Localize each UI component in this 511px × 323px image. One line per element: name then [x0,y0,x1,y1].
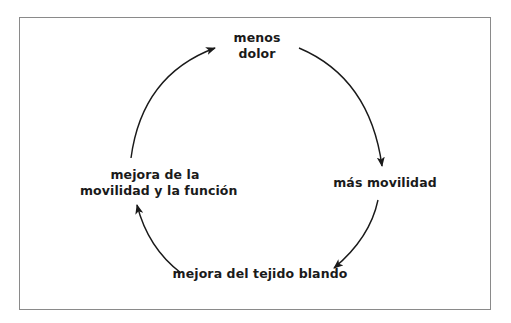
node-mas-movilidad: más movilidad [330,175,440,191]
node-menos-dolor-line1: menos [218,30,296,46]
node-mejora-movilidad-funcion-line2: movilidad y la función [80,183,230,199]
node-mejora-tejido-blando: mejora del tejido blando [172,266,348,282]
arrow-bottom-to-left [137,205,181,273]
arrow-left-to-top [131,48,215,158]
node-mas-movilidad-line1: más movilidad [330,175,440,191]
arrow-top-to-right [299,48,382,166]
node-mejora-movilidad-funcion: mejora de la movilidad y la función [80,167,230,199]
arrow-right-to-bottom [334,200,378,268]
node-mejora-movilidad-funcion-line1: mejora de la [80,167,230,183]
node-menos-dolor-line2: dolor [218,46,296,62]
node-mejora-tejido-blando-line1: mejora del tejido blando [172,266,348,282]
node-menos-dolor: menos dolor [218,30,296,62]
